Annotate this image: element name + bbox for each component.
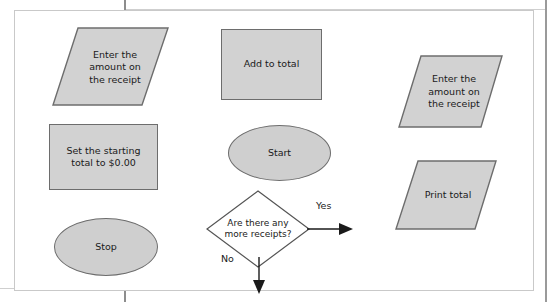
node-print-total[interactable]: Print total [393, 158, 499, 233]
connector-arrow-no [248, 255, 270, 295]
node-label: Set the starting total to $0.00 [50, 125, 157, 189]
connector-label-no: No [221, 253, 234, 264]
node-add-to-total[interactable]: Add to total [221, 29, 322, 100]
parallelogram-icon [50, 25, 172, 110]
node-start[interactable]: Start [228, 125, 331, 181]
connector-label-yes: Yes [316, 200, 331, 211]
parallelogram-icon [396, 53, 506, 131]
connector-arrow-yes [305, 218, 355, 240]
node-label: Start [229, 126, 330, 180]
node-label: Add to total [222, 30, 321, 99]
node-label: Stop [55, 219, 157, 275]
page-right-edge-line [545, 0, 547, 302]
node-enter-amount-right[interactable]: Enter the amount on the receipt [396, 53, 506, 131]
node-enter-amount-left[interactable]: Enter the amount on the receipt [50, 25, 172, 110]
parallelogram-icon [393, 158, 499, 233]
node-set-starting-total[interactable]: Set the starting total to $0.00 [49, 124, 158, 190]
node-stop[interactable]: Stop [54, 218, 158, 276]
flowchart-page: Enter the amount on the receipt Add to t… [0, 0, 549, 302]
